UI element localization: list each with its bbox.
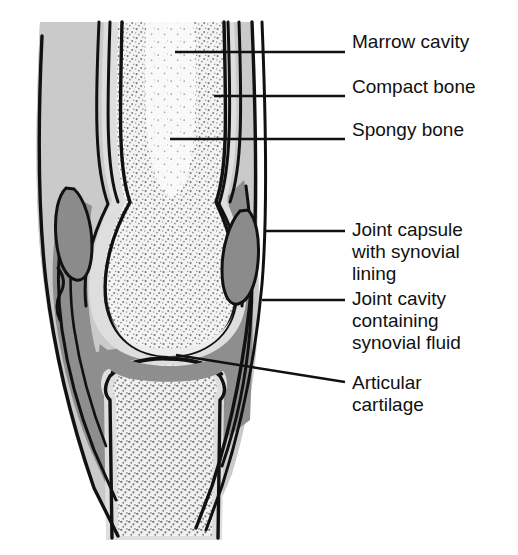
anatomy-illustration: Marrow cavity Compact bone Spongy bone J…: [0, 0, 518, 555]
label-compact-bone: Compact bone: [352, 76, 476, 97]
label-joint-cavity: Joint cavity containing synovial fluid: [352, 288, 461, 353]
label-joint-capsule: Joint capsule with synovial lining: [351, 219, 468, 284]
label-articular-cartilage: Articular cartilage: [352, 372, 427, 415]
label-spongy-bone: Spongy bone: [352, 119, 464, 140]
label-marrow-cavity: Marrow cavity: [352, 31, 470, 52]
label-group: Marrow cavity Compact bone Spongy bone J…: [351, 31, 476, 415]
knee-joint-diagram: Marrow cavity Compact bone Spongy bone J…: [0, 0, 518, 555]
